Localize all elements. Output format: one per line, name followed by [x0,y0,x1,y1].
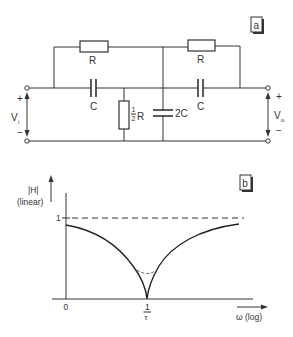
magnitude-plot: b |H| (linear) 1 0 1 τ [17,175,268,322]
svg-text:R: R [137,111,144,122]
input-voltage-arrow [25,92,30,137]
svg-text:τ: τ [145,313,148,322]
output-voltage-arrow [266,92,271,137]
resistor-half-r [119,88,129,141]
output-minus-sign: − [276,125,282,136]
input-terminal-bottom [25,139,29,143]
circuit-diagram: a R R C C [11,17,285,143]
x-tick-notch: 1 τ [144,302,152,322]
svg-text:1: 1 [132,106,136,113]
output-plus-sign: + [276,91,282,102]
svg-text:2: 2 [132,115,136,122]
y-axis-arrow [49,175,54,202]
magnitude-curve [66,224,239,299]
panel-label-a-text: a [254,20,260,31]
output-voltage-label: V o [274,110,285,123]
finite-notch-curve [137,270,157,274]
resistor-left [80,41,108,52]
panel-label-b-text: b [242,178,248,189]
svg-text:o: o [281,117,285,123]
output-terminal-bottom [266,139,270,143]
y-axis-label: |H| [28,185,39,195]
y-axis-sublabel: (linear) [17,197,44,207]
input-minus-sign: − [17,127,23,138]
panel-label-a: a [251,17,264,34]
capacitor-right-label: C [197,101,204,112]
input-terminal-top [25,86,29,90]
output-terminal-top [266,86,270,90]
resistor-right [188,40,215,51]
input-plus-sign: + [17,93,23,104]
capacitor-left-label: C [90,101,97,112]
y-tick-one: 1 [56,213,61,223]
x-tick-zero: 0 [64,302,69,312]
x-axis-arrow [237,305,268,310]
svg-text:1: 1 [145,302,150,312]
input-voltage-label: V i [11,112,19,125]
resistor-right-label: R [197,54,204,65]
svg-text:V: V [274,110,281,121]
svg-text:i: i [18,119,19,125]
resistor-half-r-label: 1 2 R [131,106,144,122]
capacitor-2c [153,110,173,116]
x-axis-label: ω (log) [236,312,262,322]
svg-text:V: V [11,112,18,123]
capacitor-left [91,79,96,97]
capacitor-2c-label: 2C [175,108,188,119]
capacitor-right [198,79,203,97]
panel-label-b: b [240,175,253,192]
resistor-left-label: R [89,55,96,66]
